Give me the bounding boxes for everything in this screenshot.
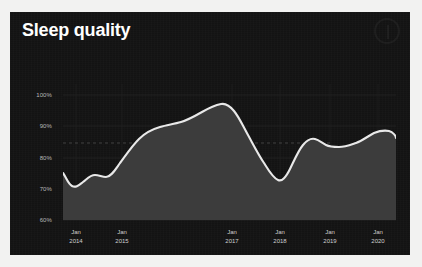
x-tick-year: 2019 bbox=[310, 237, 350, 246]
x-tick-month: Jan bbox=[102, 228, 142, 237]
x-axis-label-2019: Jan 2019 bbox=[310, 228, 350, 245]
y-axis-label-90: 90% bbox=[24, 123, 52, 129]
x-tick-year: 2017 bbox=[212, 237, 252, 246]
x-axis-label-2015: Jan 2015 bbox=[102, 228, 142, 245]
y-axis-label-80: 80% bbox=[24, 155, 52, 161]
x-tick-month: Jan bbox=[212, 228, 252, 237]
x-tick-year: 2018 bbox=[260, 237, 300, 246]
x-axis-label-2018: Jan 2018 bbox=[260, 228, 300, 245]
screenshot-root: Sleep quality bbox=[0, 0, 422, 267]
y-axis-label-100: 100% bbox=[24, 92, 52, 98]
x-tick-month: Jan bbox=[56, 228, 96, 237]
x-tick-month: Jan bbox=[310, 228, 350, 237]
x-tick-month: Jan bbox=[358, 228, 398, 237]
x-tick-year: 2020 bbox=[358, 237, 398, 246]
x-tick-month: Jan bbox=[260, 228, 300, 237]
x-tick-year: 2014 bbox=[56, 237, 96, 246]
y-axis-label-60: 60% bbox=[24, 217, 52, 223]
x-axis-label-2017: Jan 2017 bbox=[212, 228, 252, 245]
x-axis-label-2020: Jan 2020 bbox=[358, 228, 398, 245]
sleep-quality-card: Sleep quality bbox=[10, 12, 410, 255]
x-tick-year: 2015 bbox=[102, 237, 142, 246]
area-fill bbox=[63, 104, 396, 220]
y-axis-label-70: 70% bbox=[24, 186, 52, 192]
x-axis-label-2014: Jan 2014 bbox=[56, 228, 96, 245]
area-chart-svg bbox=[10, 12, 410, 255]
chart-plot-area: 100% 90% 80% 70% 60% Jan 2014 Jan 2015 J… bbox=[10, 12, 410, 255]
